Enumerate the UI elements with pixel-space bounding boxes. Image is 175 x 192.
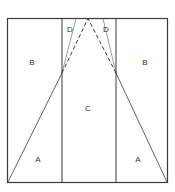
left-dashed-line [62, 19, 88, 74]
label-a-right: A [135, 155, 141, 164]
geometric-diagram: B B C A A D D [0, 0, 175, 192]
label-b-right: B [142, 58, 147, 67]
left-diagonal-line [8, 73, 62, 182]
outer-box [8, 19, 168, 183]
right-dashed-line [88, 19, 116, 74]
label-c: C [85, 104, 91, 113]
right-diagonal-line [116, 73, 167, 182]
label-a-left: A [35, 155, 41, 164]
label-d-left: D [67, 25, 73, 34]
label-d-right: D [103, 25, 109, 34]
label-b-left: B [29, 58, 34, 67]
